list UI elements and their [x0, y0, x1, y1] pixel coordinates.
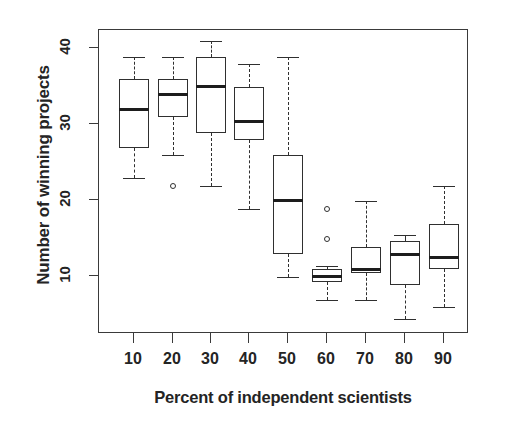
median-line [273, 199, 303, 202]
upper-whisker [249, 64, 250, 87]
box-iqr [273, 155, 303, 254]
lower-whisker [405, 285, 406, 319]
upper-whisker [211, 41, 212, 56]
y-tick-label: 10 [56, 255, 73, 295]
x-axis-title: Percent of independent scientists [98, 388, 468, 407]
box-iqr [390, 241, 420, 284]
lower-whisker [211, 133, 212, 186]
x-tick-label: 20 [152, 350, 192, 368]
upper-whisker-cap [123, 57, 145, 58]
lower-whisker-cap [162, 155, 184, 156]
lower-whisker [288, 254, 289, 277]
outlier-point [324, 236, 330, 242]
x-tick-mark [326, 333, 327, 343]
lower-whisker-cap [123, 178, 145, 179]
median-line [351, 268, 381, 271]
box-iqr [234, 87, 264, 140]
median-line [119, 108, 149, 111]
y-tick-label: 40 [56, 27, 73, 67]
x-tick-label: 80 [384, 350, 424, 368]
y-tick-mark [89, 47, 98, 48]
x-tick-label: 40 [228, 350, 268, 368]
x-tick-label: 60 [306, 350, 346, 368]
x-tick-mark [210, 333, 211, 343]
upper-whisker-cap [394, 235, 416, 236]
upper-whisker-cap [238, 64, 260, 65]
plot-area [98, 29, 468, 333]
x-tick-mark [248, 333, 249, 343]
upper-whisker [173, 57, 174, 80]
x-tick-mark [404, 333, 405, 343]
lower-whisker [134, 148, 135, 178]
median-line [196, 85, 226, 88]
y-tick-label: 20 [56, 179, 73, 219]
lower-whisker-cap [316, 300, 338, 301]
y-tick-mark [89, 199, 98, 200]
outlier-point [170, 183, 176, 189]
x-tick-label: 70 [345, 350, 385, 368]
upper-whisker [288, 57, 289, 156]
box-iqr [196, 57, 226, 133]
lower-whisker-cap [394, 319, 416, 320]
lower-whisker [444, 269, 445, 307]
lower-whisker [327, 282, 328, 299]
x-tick-mark [443, 333, 444, 343]
x-tick-label: 90 [423, 350, 463, 368]
lower-whisker-cap [200, 186, 222, 187]
lower-whisker [173, 117, 174, 155]
median-line [234, 120, 264, 123]
lower-whisker-cap [277, 277, 299, 278]
upper-whisker-cap [200, 41, 222, 42]
box-iqr [119, 79, 149, 147]
upper-whisker-cap [355, 201, 377, 202]
x-tick-mark [133, 333, 134, 343]
box-iqr [158, 79, 188, 117]
y-tick-mark [89, 123, 98, 124]
upper-whisker-cap [316, 266, 338, 267]
upper-whisker-cap [277, 57, 299, 58]
x-tick-mark [287, 333, 288, 343]
upper-whisker [366, 201, 367, 247]
x-tick-mark [365, 333, 366, 343]
lower-whisker-cap [238, 209, 260, 210]
upper-whisker [444, 186, 445, 224]
y-tick-mark [89, 275, 98, 276]
outlier-point [324, 206, 330, 212]
median-line [312, 275, 342, 278]
lower-whisker-cap [355, 300, 377, 301]
lower-whisker [366, 273, 367, 300]
upper-whisker [134, 57, 135, 80]
box-iqr [429, 224, 459, 270]
x-tick-label: 50 [267, 350, 307, 368]
y-tick-label: 30 [56, 103, 73, 143]
upper-whisker-cap [162, 57, 184, 58]
x-tick-label: 30 [190, 350, 230, 368]
x-tick-label: 10 [113, 350, 153, 368]
lower-whisker [249, 140, 250, 208]
median-line [158, 93, 188, 96]
lower-whisker-cap [433, 307, 455, 308]
x-tick-mark [172, 333, 173, 343]
boxplot-figure: Number of winning projects 10203040 1020… [0, 0, 505, 430]
upper-whisker-cap [433, 186, 455, 187]
median-line [390, 253, 420, 256]
median-line [429, 256, 459, 259]
